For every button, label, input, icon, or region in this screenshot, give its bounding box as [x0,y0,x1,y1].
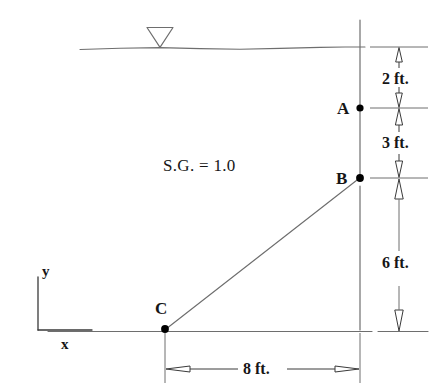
dim-arrowhead-6ft-down [395,310,403,331]
dim-arrowhead-2ft-up [396,48,403,62]
point-marker-a [356,104,363,111]
fluid-specific-gravity-label: S.G. = 1.0 [163,157,236,174]
point-label-c: C [155,300,167,317]
dim-arrowhead-6ft-up [395,179,403,199]
dimension-label-8ft: 8 ft. [243,361,270,377]
point-marker-b [356,174,364,182]
point-marker-c [161,325,169,333]
inverted-triangle-icon [147,28,173,48]
dim-arrowhead-3ft-down [395,161,402,177]
point-label-a: A [337,100,349,117]
dim-arrowhead-8ft-left [166,366,190,372]
dim-arrowhead-8ft-right [335,366,359,372]
gate-line-bc [166,179,359,330]
point-label-b: B [336,170,347,187]
dimension-label-6ft: 6 ft. [382,255,409,271]
axis-label-x: x [61,337,69,352]
figure-canvas [0,0,436,392]
dim-arrowhead-3ft-up [395,109,402,125]
water-surface-line [80,47,365,50]
dim-arrowhead-2ft-down [396,93,403,107]
dimension-label-3ft: 3 ft. [382,135,409,151]
dimension-label-2ft: 2 ft. [382,71,409,87]
axis-label-y: y [42,264,50,279]
hydrostatics-figure: S.G. = 1.0 A B C 2 ft. 3 ft. 6 ft. 8 ft.… [0,0,436,392]
